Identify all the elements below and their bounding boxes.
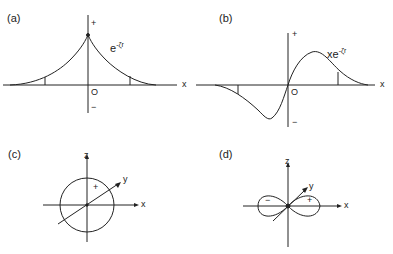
figure-canvas — [0, 0, 393, 254]
panel-d-z-label: z — [285, 157, 290, 166]
panel-c-diagram — [43, 158, 135, 242]
panel-d-label: (d) — [219, 149, 232, 160]
panel-a-curve — [10, 35, 156, 85]
panel-b-plus: + — [292, 30, 297, 39]
panel-a-function: e-ζr — [110, 41, 124, 54]
panel-c-label: (c) — [8, 149, 21, 160]
panel-c-sign: + — [93, 183, 98, 192]
panel-d-x-label: x — [344, 201, 349, 210]
panel-c-y-label: y — [123, 175, 128, 184]
panel-b-origin: O — [291, 88, 298, 97]
panel-c-y-arrow — [115, 182, 121, 188]
panel-a-origin: O — [91, 88, 98, 97]
panel-a-plus: + — [91, 19, 96, 28]
panel-d-y-label: y — [309, 182, 314, 191]
panel-c-x-arrow — [134, 203, 139, 207]
panel-a-graph — [3, 15, 177, 113]
panel-a-label: (a) — [7, 13, 20, 24]
panel-b-graph — [196, 33, 375, 127]
panel-b-label: (b) — [219, 13, 232, 24]
panel-b-x-label: x — [380, 80, 385, 89]
panel-d-pos-sign: + — [307, 196, 312, 205]
panel-d-x-arrow — [337, 204, 342, 208]
panel-a-minus: − — [91, 103, 96, 112]
panel-c-x-label: x — [141, 200, 146, 209]
panel-d-diagram — [243, 166, 338, 247]
panel-c-z-label: z — [84, 151, 89, 160]
panel-b-function: xe-ζr — [327, 47, 346, 60]
panel-a-peak-dot — [87, 34, 90, 37]
panel-a-x-label: x — [182, 80, 187, 89]
panel-d-neg-sign: − — [265, 196, 270, 205]
panel-b-minus: − — [292, 118, 297, 127]
